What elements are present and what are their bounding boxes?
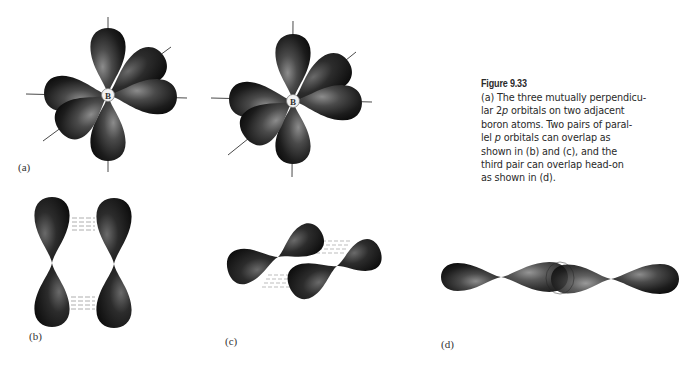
panel-d-overlap <box>441 262 679 294</box>
caption-line: lel p orbitals can overlap as <box>481 131 690 144</box>
panel-b-overlap <box>34 197 131 328</box>
orbital-figure: B B <box>0 0 700 370</box>
atom-symbol: B <box>105 91 111 101</box>
caption-line: lar 2p orbitals on two adjacent <box>481 104 690 117</box>
figure-caption: Figure 9.33 (a) The three mutually perpe… <box>481 77 691 185</box>
caption-line: (a) The three mutually perpendicu- <box>481 91 690 104</box>
caption-line: shown in (b) and (c), and the <box>481 145 690 158</box>
caption-line: boron atoms. Two pairs of paral- <box>481 118 690 131</box>
caption-line: third pair can overlap head-on <box>481 158 690 171</box>
caption-line: as shown in (d). <box>481 171 690 184</box>
panel-label-a: (a) <box>18 161 30 173</box>
boron-atom-2: B <box>211 21 372 177</box>
panel-label-d: (d) <box>441 338 454 350</box>
panel-c-overlap <box>223 218 385 304</box>
figure-title: Figure 9.33 <box>481 77 653 89</box>
panel-label-c: (c) <box>225 335 237 347</box>
atom-symbol: B <box>290 97 296 107</box>
boron-atom-1: B <box>26 17 187 172</box>
panel-label-b: (b) <box>29 330 42 342</box>
caption-body: (a) The three mutually perpendicu-lar 2p… <box>481 91 690 185</box>
overlap-dashes <box>71 218 95 309</box>
